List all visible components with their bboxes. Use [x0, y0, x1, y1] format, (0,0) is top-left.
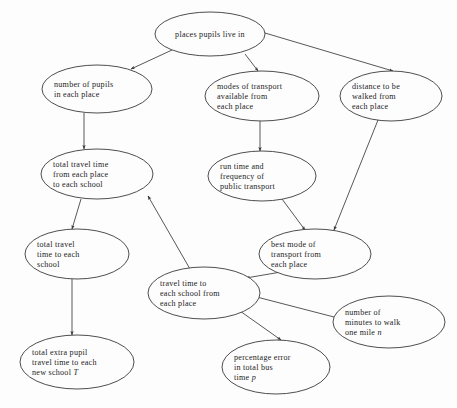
- edge-total-from-place-to-total-each-school: [72, 199, 81, 229]
- edge-travel-time-place-to-percentage-error: [240, 311, 281, 340]
- node-distance-to-be-walked-from-each-place[interactable]: distance to bewalked fromeach place: [340, 71, 442, 121]
- edge-places-to-distance: [265, 33, 393, 71]
- node-number-of-pupils-in-each-place[interactable]: number of pupilsin each place: [42, 65, 152, 113]
- node-label-places-pupils-live-in: places pupils live in: [175, 30, 245, 39]
- nodes-layer: places pupils live innumber of pupilsin …: [20, 12, 445, 394]
- node-total-extra-pupil-travel-time-to-each-new-school[interactable]: total extra pupiltravel time to eachnew …: [20, 335, 134, 389]
- edge-minutes-walk-to-travel-time-place: [249, 295, 334, 317]
- node-run-time-and-frequency-of-public-transport[interactable]: run time andfrequency ofpublic transport: [208, 151, 316, 201]
- flow-diagram: places pupils live innumber of pupilsin …: [0, 0, 457, 408]
- node-number-of-minutes-to-walk-one-mile[interactable]: number ofminutes to walkone mile n: [333, 296, 445, 348]
- edge-places-to-pupils: [131, 50, 172, 69]
- node-places-pupils-live-in[interactable]: places pupils live in: [155, 12, 265, 56]
- edge-distance-to-best-mode: [334, 120, 378, 230]
- node-best-mode-of-transport-from-each-place[interactable]: best mode oftransport fromeach place: [259, 229, 371, 279]
- diagram-canvas: places pupils live innumber of pupilsin …: [0, 0, 457, 408]
- node-total-travel-time-to-each-school[interactable]: total traveltime to eachschool: [25, 229, 129, 279]
- node-modes-of-transport-available-from-each-place[interactable]: modes of transportavailable fromeach pla…: [205, 71, 319, 121]
- edge-travel-time-place-to-total-from-place: [148, 196, 190, 269]
- node-shape-number-of-pupils-in-each-place: [42, 65, 152, 113]
- node-travel-time-to-each-school-from-each-place[interactable]: travel time toeach school fromeach place: [148, 267, 260, 319]
- edge-places-to-modes: [245, 54, 258, 71]
- node-percentage-error-in-total-bus-time[interactable]: percentage errorin total bustime p: [222, 340, 330, 394]
- edge-best-mode-to-travel-time-place: [246, 272, 281, 278]
- node-total-travel-time-from-each-place-to-each-school[interactable]: total travel timefrom each placeto each …: [41, 149, 153, 199]
- node-label-total-travel-time-from-each-place-to-each-school: total travel timefrom each placeto each …: [53, 160, 109, 189]
- edge-run-time-to-best-mode: [282, 199, 305, 230]
